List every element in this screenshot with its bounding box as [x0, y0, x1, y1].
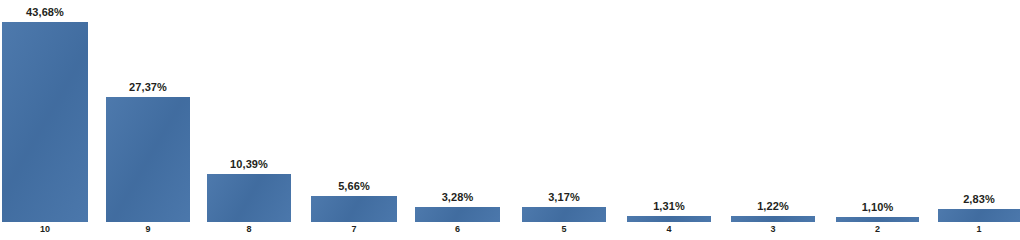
bar-value-label-5: 3,17% — [548, 191, 580, 203]
bar-value-label-3: 5,66% — [338, 180, 370, 192]
bar-group-0: 43,68% — [2, 0, 88, 222]
bar-value-label-9: 2,83% — [963, 193, 995, 205]
bar-group-4: 3,28% — [415, 0, 500, 222]
plot-area: 43,68% 27,37% 10,39% 5,66% 3,28% 3,17% 1… — [0, 0, 1020, 222]
category-label-2: 8 — [207, 224, 291, 234]
bar-value-label-4: 3,28% — [442, 191, 474, 203]
bar-group-3: 5,66% — [311, 0, 397, 222]
category-label-0: 10 — [2, 224, 88, 234]
bar-group-7: 1,22% — [731, 0, 815, 222]
category-label-8: 2 — [836, 224, 919, 234]
bar-group-1: 27,37% — [106, 0, 190, 222]
category-label-1: 9 — [106, 224, 190, 234]
bar-chart: 43,68% 27,37% 10,39% 5,66% 3,28% 3,17% 1… — [0, 0, 1020, 240]
bar-5[interactable] — [522, 207, 606, 222]
bar-9[interactable] — [938, 209, 1020, 222]
bar-0[interactable] — [2, 22, 88, 222]
bar-value-label-6: 1,31% — [653, 200, 685, 212]
bar-value-label-7: 1,22% — [757, 200, 789, 212]
category-label-7: 3 — [731, 224, 815, 234]
category-label-5: 5 — [522, 224, 606, 234]
bar-group-5: 3,17% — [522, 0, 606, 222]
category-label-3: 7 — [311, 224, 397, 234]
bar-value-label-2: 10,39% — [230, 158, 268, 170]
bar-1[interactable] — [106, 97, 190, 222]
bar-value-label-1: 27,37% — [129, 81, 167, 93]
bar-value-label-8: 1,10% — [862, 201, 894, 213]
bar-group-6: 1,31% — [627, 0, 711, 222]
bar-2[interactable] — [207, 174, 291, 222]
bar-4[interactable] — [415, 207, 500, 222]
bar-3[interactable] — [311, 196, 397, 222]
bar-group-2: 10,39% — [207, 0, 291, 222]
bar-value-label-0: 43,68% — [26, 6, 64, 18]
category-label-6: 4 — [627, 224, 711, 234]
category-label-4: 6 — [415, 224, 500, 234]
bar-group-9: 2,83% — [938, 0, 1020, 222]
category-axis: 10 9 8 7 6 5 4 3 2 1 — [0, 222, 1020, 240]
category-label-9: 1 — [938, 224, 1020, 234]
bar-group-8: 1,10% — [836, 0, 919, 222]
